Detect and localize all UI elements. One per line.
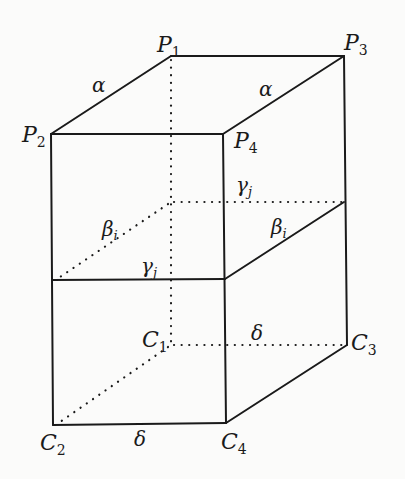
label-alpha-right: α: [259, 77, 273, 101]
edge-p3-p4: [223, 56, 344, 134]
label-gamma-front: γj: [141, 254, 157, 280]
label-c3: C3: [351, 330, 377, 358]
label-c2: C2: [40, 430, 66, 458]
edge-c2-c4: [53, 423, 226, 425]
visible-edges: [51, 56, 347, 425]
label-c4: C4: [221, 429, 247, 457]
edge-middle-front: [52, 279, 225, 280]
label-delta-front: δ: [134, 427, 146, 451]
hidden-edges: [60, 60, 345, 422]
edge-p3-c3: [344, 56, 347, 345]
edge-c4-c3: [226, 345, 347, 423]
label-c1: C1: [142, 327, 168, 355]
edge-c1-c2-hidden: [60, 347, 168, 422]
prism-diagram: P1 P2 P3 P4 C1 C2 C3 C4 α α γj βi βi γj …: [0, 0, 405, 479]
label-p4: P4: [233, 128, 258, 156]
label-p2: P2: [21, 122, 46, 150]
label-beta-left: βi: [101, 217, 118, 243]
vertex-labels: P1 P2 P3 P4 C1 C2 C3 C4: [21, 30, 377, 458]
label-gamma-back: γj: [236, 173, 252, 199]
label-p3: P3: [343, 30, 368, 58]
label-beta-right: βi: [270, 215, 287, 241]
edge-p1-p2: [51, 56, 171, 134]
label-p1: P1: [156, 32, 181, 60]
label-delta-back: δ: [251, 321, 263, 345]
edge-labels: α α γj βi βi γj δ δ: [92, 73, 287, 451]
label-alpha-left: α: [92, 73, 106, 97]
